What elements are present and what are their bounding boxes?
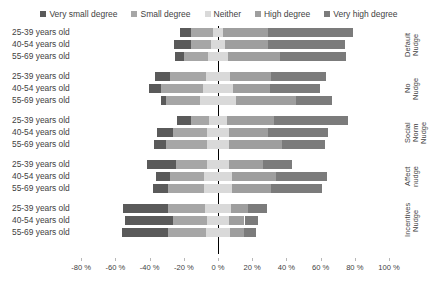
legend-item[interactable]: Neither [205, 9, 241, 19]
bar-segment [232, 184, 271, 193]
stacked-bar [0, 84, 438, 93]
x-tick-label: -60 % [105, 263, 125, 272]
bar-segment [156, 172, 170, 181]
bar-segment [231, 204, 248, 213]
x-tick-mark [115, 258, 116, 261]
bar-segment [166, 140, 207, 149]
bar-segment [296, 96, 332, 105]
bar-segment [177, 116, 191, 125]
square-swatch-icon [205, 11, 211, 17]
chart-row: 40-54 years old [0, 128, 438, 137]
stacked-bar [0, 116, 438, 125]
stacked-bar [0, 128, 438, 137]
legend-item-label: Neither [214, 9, 241, 19]
stacked-bar [0, 216, 438, 225]
bar-segment [149, 84, 161, 93]
bar-segment [200, 96, 236, 105]
bar-segment [230, 228, 244, 237]
stacked-bar [0, 140, 438, 149]
square-swatch-icon [255, 11, 261, 17]
chart-row: 40-54 years old [0, 40, 438, 49]
legend-item[interactable]: Small degree [131, 9, 190, 19]
chart-row: 55-69 years old [0, 140, 438, 149]
group-label: Affect nudge [404, 160, 420, 193]
legend-item-label: Very small degree [49, 9, 117, 19]
x-tick-label: -80 % [71, 263, 91, 272]
stacked-bar [0, 96, 438, 105]
stacked-bar [0, 204, 438, 213]
bar-segment [207, 216, 229, 225]
x-tick-mark [218, 258, 219, 261]
bar-segment [147, 160, 176, 169]
legend-item[interactable]: Very small degree [40, 9, 117, 19]
bar-segment [209, 116, 226, 125]
chart-row: 25-39 years old [0, 160, 438, 169]
chart-row: 25-39 years old [0, 116, 438, 125]
x-tick-mark [184, 258, 185, 261]
x-tick-mark [321, 258, 322, 261]
legend-item-label: Very high degree [333, 9, 397, 19]
x-tick-mark [355, 258, 356, 261]
bar-segment [207, 140, 229, 149]
x-tick-mark [150, 258, 151, 261]
chart-row: 40-54 years old [0, 172, 438, 181]
chart-row: 40-54 years old [0, 216, 438, 225]
bar-segment [271, 184, 322, 193]
stacked-bar [0, 40, 438, 49]
stacked-bar [0, 228, 438, 237]
square-swatch-icon [324, 11, 330, 17]
chart-plot-area: 25-39 years old40-54 years old55-69 year… [0, 26, 438, 258]
bar-segment [229, 160, 263, 169]
bar-segment [207, 128, 229, 137]
legend-item-label: High degree [264, 9, 310, 19]
bar-segment [207, 160, 229, 169]
bar-segment [175, 52, 184, 61]
x-tick-mark [286, 258, 287, 261]
group-label: No Nudge [404, 72, 420, 105]
bar-segment [161, 84, 204, 93]
x-tick-label: -40 % [140, 263, 160, 272]
chart-row: 25-39 years old [0, 28, 438, 37]
x-tick-label: -20 % [174, 263, 194, 272]
legend-item[interactable]: High degree [255, 9, 310, 19]
bar-segment [122, 228, 168, 237]
bar-segment [205, 204, 231, 213]
bar-segment [211, 40, 225, 49]
bar-segment [276, 172, 327, 181]
x-tick-label: 80 % [346, 263, 363, 272]
bar-segment [176, 160, 207, 169]
bar-segment [168, 228, 206, 237]
bar-segment [245, 216, 259, 225]
bar-segment [170, 72, 206, 81]
legend-item-label: Small degree [140, 9, 190, 19]
bar-segment [125, 216, 173, 225]
bar-segment [180, 28, 190, 37]
stacked-bar [0, 184, 438, 193]
x-tick-label: 60 % [312, 263, 329, 272]
bar-segment [229, 128, 268, 137]
bar-segment [270, 84, 320, 93]
bar-segment [123, 204, 167, 213]
bar-segment [268, 28, 354, 37]
bar-segment [208, 52, 229, 61]
bar-segment [223, 28, 267, 37]
stacked-bar [0, 72, 438, 81]
stacked-bar [0, 172, 438, 181]
bar-segment [232, 172, 276, 181]
x-tick-label: 20 % [244, 263, 261, 272]
bar-segment [203, 84, 232, 93]
bar-segment [225, 40, 268, 49]
chart-row: 55-69 years old [0, 184, 438, 193]
chart-row: 40-54 years old [0, 84, 438, 93]
x-tick-label: 100 % [378, 263, 400, 272]
bar-segment [154, 140, 166, 149]
chart-legend: Very small degreeSmall degreeNeitherHigh… [0, 6, 438, 22]
bar-segment [268, 40, 345, 49]
bar-segment [230, 72, 271, 81]
bar-segment [268, 128, 328, 137]
bar-segment [155, 72, 170, 81]
bar-segment [191, 40, 212, 49]
bar-segment [204, 184, 231, 193]
legend-item[interactable]: Very high degree [324, 9, 397, 19]
bar-segment [168, 204, 206, 213]
